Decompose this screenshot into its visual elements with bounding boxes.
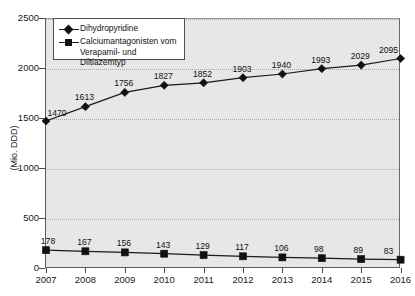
data-point-label: 167 (67, 238, 101, 247)
x-tick-label: 2012 (223, 275, 263, 285)
data-point-label: 1827 (146, 72, 180, 81)
x-tick-label: 2014 (302, 275, 342, 285)
y-tick-label: 0 (5, 263, 39, 273)
data-point-label: 89 (341, 246, 375, 255)
x-tick-label: 2011 (184, 275, 224, 285)
y-tick-mark (39, 68, 45, 69)
x-tick-mark (46, 268, 47, 273)
data-point-label: 106 (264, 244, 298, 253)
x-tick-mark (164, 268, 165, 273)
legend-label-series-2-line2: Verapamil- und Diltiazemtyp (80, 47, 136, 68)
y-axis: 05001000150020002500 (0, 0, 39, 296)
data-point-label: 143 (146, 241, 180, 250)
legend: Dihydropyridine Calciumantagonisten vom … (53, 18, 185, 60)
data-point-label: 1940 (264, 61, 298, 70)
data-point-label: 1756 (107, 79, 141, 88)
line-chart: 05001000150020002500 (Mio. DDD) 20072008… (0, 0, 415, 296)
data-point-label: 1852 (186, 70, 220, 79)
legend-item-dihydropyridine: Dihydropyridine (58, 23, 180, 35)
x-tick-label: 2010 (144, 275, 184, 285)
legend-label-series-2: Calciumantagonisten vom Verapamil- und D… (80, 36, 180, 68)
y-tick-mark (39, 268, 45, 269)
square-marker-icon (58, 37, 80, 48)
x-tick-mark (243, 268, 244, 273)
x-tick-mark (401, 268, 402, 273)
gridline (46, 219, 399, 220)
legend-item-calciumantagonisten: Calciumantagonisten vom Verapamil- und D… (58, 36, 180, 68)
x-tick-mark (322, 268, 323, 273)
data-point-label: 1613 (67, 93, 101, 102)
data-point-label: 98 (302, 245, 336, 254)
y-tick-mark (39, 168, 45, 169)
x-tick-label: 2009 (105, 275, 145, 285)
legend-label-series-1: Dihydropyridine (80, 23, 138, 34)
y-tick-mark (39, 18, 45, 19)
y-tick-mark (39, 218, 45, 219)
gridline (46, 169, 399, 170)
x-tick-mark (85, 268, 86, 273)
data-point-label: 2095 (372, 46, 406, 55)
diamond-marker-icon (58, 24, 80, 35)
gridline (46, 69, 399, 70)
y-tick-label: 2000 (5, 63, 39, 73)
data-point-label: 1470 (40, 109, 74, 118)
y-tick-label: 2500 (5, 13, 39, 23)
x-tick-mark (125, 268, 126, 273)
data-point-label: 129 (186, 242, 220, 251)
y-tick-label: 500 (5, 213, 39, 223)
data-point-label: 83 (372, 247, 406, 256)
y-tick-mark (39, 118, 45, 119)
y-axis-title: (Mio. DDD) (9, 103, 19, 193)
x-tick-label: 2016 (381, 275, 415, 285)
data-point-label: 1903 (225, 65, 259, 74)
data-point-label: 1993 (304, 56, 338, 65)
x-tick-mark (204, 268, 205, 273)
x-tick-mark (361, 268, 362, 273)
x-tick-label: 2008 (65, 275, 105, 285)
legend-label-series-2-line1: Calciumantagonisten vom (80, 36, 176, 46)
x-tick-mark (282, 268, 283, 273)
data-point-label: 156 (107, 239, 141, 248)
x-tick-label: 2013 (262, 275, 302, 285)
gridline (46, 119, 399, 120)
data-point-label: 178 (31, 237, 65, 246)
data-point-label: 117 (225, 243, 259, 252)
x-tick-label: 2007 (26, 275, 66, 285)
x-tick-label: 2015 (341, 275, 381, 285)
